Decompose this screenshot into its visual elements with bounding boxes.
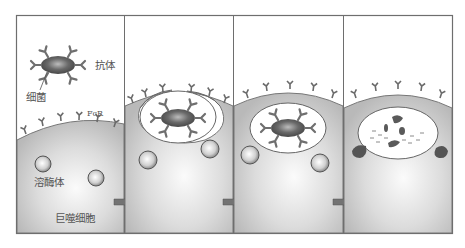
lysosome [201,140,219,158]
panel-4 [344,81,452,233]
label-antibody: 抗体 [95,59,116,71]
lysosome [311,154,329,172]
lysosome [241,146,259,164]
label-fcr: FcR [87,109,104,118]
label-bacterium: 细菌 [26,91,46,103]
panel-3 [234,81,343,233]
lysosome [35,156,51,172]
lysosome [139,151,157,169]
phagolysosome [358,107,438,159]
phagocytosis-diagram: 抗体 细菌 FcR 溶酶体 巨噬细胞 [0,0,465,248]
lysosome [88,170,104,186]
label-lysosome: 溶酶体 [34,176,65,188]
label-macrophage: 巨噬细胞 [55,212,96,224]
